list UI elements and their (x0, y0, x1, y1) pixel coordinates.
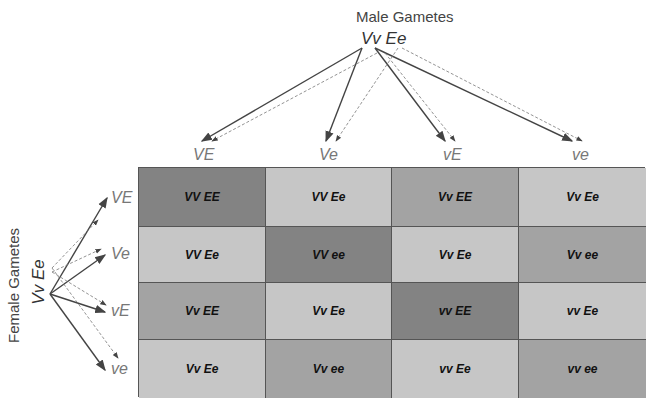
female-gamete-2: Ve (111, 245, 130, 263)
offspring-cell: VV EE (139, 168, 266, 227)
offspring-cell: vv Ee (519, 283, 646, 340)
female-gamete-1: VE (111, 189, 132, 207)
offspring-cell: vv EE (392, 283, 519, 340)
male-gamete-2: Ve (319, 146, 338, 164)
offspring-cell: Vv EE (392, 168, 519, 227)
male-parent-genotype: Vv Ee (361, 29, 406, 49)
offspring-cell: VV Ee (139, 227, 266, 283)
male-gamete-4: ve (572, 146, 589, 164)
offspring-cell: VV Ee (266, 168, 392, 227)
punnett-square-diagram: Male Gametes Vv Ee VE Ve vE ve Female Ga… (0, 0, 654, 402)
offspring-cell: Vv EE (139, 283, 266, 340)
offspring-cell: Vv ee (266, 340, 392, 398)
offspring-cell: Vv Ee (519, 168, 646, 227)
female-parent-genotype: Vv Ee (29, 259, 49, 304)
offspring-cell: VV ee (266, 227, 392, 283)
offspring-cell: vv ee (519, 340, 646, 398)
male-gametes-title: Male Gametes (356, 8, 454, 25)
offspring-cell: Vv Ee (266, 283, 392, 340)
punnett-grid: VV EEVV EeVv EEVv EeVV EeVV eeVv EeVv ee… (138, 167, 645, 397)
offspring-cell: Vv ee (519, 227, 646, 283)
male-gamete-3: vE (443, 146, 462, 164)
offspring-cell: Vv Ee (139, 340, 266, 398)
female-gamete-4: ve (111, 360, 128, 378)
offspring-cell: Vv Ee (392, 227, 519, 283)
female-gamete-3: vE (111, 302, 130, 320)
female-gametes-title: Female Gametes (5, 228, 22, 343)
offspring-cell: vv Ee (392, 340, 519, 398)
male-gamete-1: VE (193, 146, 214, 164)
